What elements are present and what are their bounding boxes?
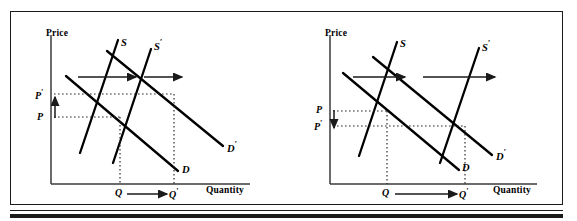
supply-curve-initial bbox=[359, 42, 397, 156]
quantity-tick-initial: Q bbox=[382, 187, 389, 198]
panel-supply-dominant: Price Quantity S S′ D D′ P P′ Q Q′ bbox=[283, 11, 571, 205]
supply-curve-shifted-label: S′ bbox=[154, 37, 162, 52]
footer-rule-thick bbox=[10, 214, 563, 218]
quantity-tick-final: Q′ bbox=[459, 187, 468, 200]
price-tick-upper: P bbox=[316, 104, 322, 115]
price-tick-lower: P′ bbox=[314, 119, 322, 132]
y-axis-label: Price bbox=[46, 28, 68, 38]
quantity-tick-initial: Q bbox=[115, 187, 122, 198]
supply-curve-shifted bbox=[440, 48, 479, 163]
x-axis-label: Quantity bbox=[493, 185, 531, 195]
supply-curve-shifted-label: S′ bbox=[482, 38, 490, 53]
demand-curve-shifted-label: D′ bbox=[496, 147, 506, 162]
axis-lines bbox=[330, 35, 537, 184]
demand-curve-shifted-label: D′ bbox=[227, 139, 237, 154]
supply-curve-initial-label: S bbox=[121, 37, 127, 48]
x-axis-label: Quantity bbox=[206, 185, 244, 195]
equilibrium-guides bbox=[54, 94, 174, 184]
price-tick-upper: P′ bbox=[35, 88, 43, 101]
axis-lines bbox=[51, 35, 250, 184]
quantity-tick-final: Q′ bbox=[169, 187, 178, 200]
price-tick-lower: P bbox=[37, 111, 43, 122]
demand-curve-initial bbox=[66, 76, 178, 171]
demand-curve-initial-label: D bbox=[182, 164, 190, 175]
supply-demand-figure: Price Quantity S S′ D D′ P′ P Q Q′ bbox=[0, 0, 577, 221]
demand-curve-shifted bbox=[373, 57, 492, 155]
y-axis-label: Price bbox=[325, 28, 347, 38]
plot-supply-dominant bbox=[283, 11, 571, 205]
supply-curve-initial-label: S bbox=[400, 38, 406, 49]
demand-curve-initial bbox=[343, 73, 459, 170]
supply-curve-initial bbox=[80, 40, 118, 153]
demand-curve-initial-label: D bbox=[462, 162, 470, 173]
footer-rule-thin bbox=[10, 210, 563, 211]
supply-curve-shifted bbox=[113, 49, 151, 163]
panel-demand-dominant: Price Quantity S S′ D D′ P′ P Q Q′ bbox=[10, 11, 298, 205]
